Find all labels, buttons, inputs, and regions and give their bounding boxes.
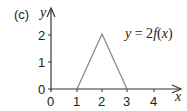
x-tick-4: 4 <box>150 94 157 109</box>
x-tick-1: 1 <box>73 94 80 109</box>
y-axis: y 2 1 0 <box>38 5 55 97</box>
y-tick-2: 2 <box>38 28 45 43</box>
x-tick-2: 2 <box>98 94 105 109</box>
equation-label: y = 2f(x) <box>123 26 173 42</box>
x-tick-0: 0 <box>47 94 54 109</box>
function-curve <box>77 34 127 89</box>
graph-figure: (c) y 2 1 0 x 0 1 2 3 4 y = 2f(x) <box>0 0 187 111</box>
y-axis-label: y <box>38 5 47 20</box>
part-label: (c) <box>14 7 29 22</box>
x-axis-label: x <box>174 89 182 104</box>
x-tick-3: 3 <box>123 94 130 109</box>
y-tick-0: 0 <box>38 82 45 97</box>
y-tick-1: 1 <box>38 55 45 70</box>
x-axis: x 0 1 2 3 4 <box>47 85 182 109</box>
